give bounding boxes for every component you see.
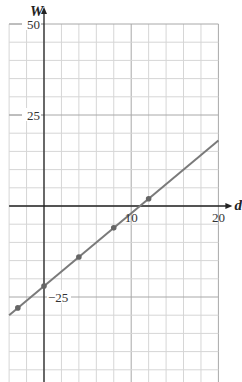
data-point [76,254,82,260]
data-point [15,305,21,311]
data-point [146,196,152,202]
x-axis-arrow-icon [225,203,232,209]
tick-labels: Wd10205025−25 [22,3,242,305]
y-tick-label: −25 [48,290,68,305]
axes [9,7,232,382]
grid [9,24,218,382]
y-tick-label: 50 [27,17,40,32]
x-tick-label: 10 [125,210,138,225]
x-axis-label: d [234,197,242,213]
chart: Wd10205025−25 [0,0,242,382]
data-point [41,283,47,289]
x-tick-label: 20 [212,210,225,225]
y-tick-label: 25 [27,108,40,123]
data-point [111,225,117,231]
